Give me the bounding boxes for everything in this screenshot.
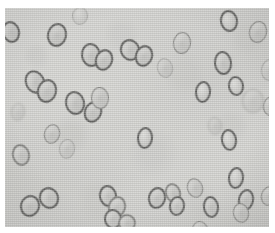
cell-core (65, 92, 85, 115)
cell-core (170, 197, 184, 215)
cell-core (47, 24, 67, 47)
cell-core (118, 214, 136, 227)
cell-core (148, 188, 165, 209)
cell-core (208, 118, 221, 135)
cell-core (5, 21, 20, 42)
cell-core (215, 52, 231, 73)
cell-core (12, 145, 30, 166)
specimen-field (5, 8, 269, 227)
cell-core (91, 87, 109, 108)
cell (242, 89, 264, 113)
micrograph-viewer (0, 0, 275, 233)
cell-core (204, 197, 218, 216)
cell-core (243, 90, 263, 112)
